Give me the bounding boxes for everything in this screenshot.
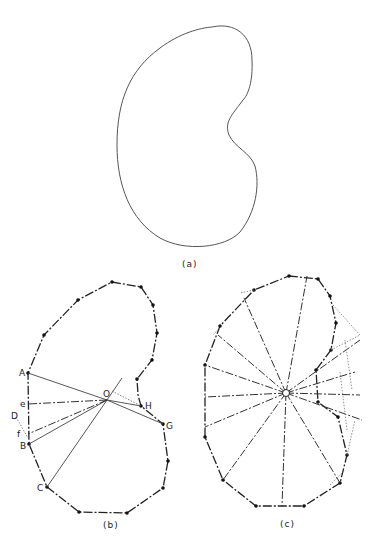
kidney-outline	[117, 26, 257, 247]
vertex-dots	[203, 274, 349, 508]
polygon-outline	[28, 282, 168, 513]
label-f: f	[17, 429, 21, 439]
label-D: D	[11, 411, 18, 421]
dotted-lines	[16, 391, 141, 438]
panel-a: (a)	[117, 26, 257, 269]
panel-c: (c)	[203, 274, 362, 529]
panel-b: A e D f B C O H G (b)	[11, 280, 173, 530]
label-G: G	[166, 421, 173, 431]
figure: (a) A e	[0, 0, 376, 549]
vertex-dots	[26, 280, 170, 515]
label-C: C	[37, 483, 43, 493]
label-A: A	[19, 368, 26, 378]
polygon-outline	[205, 276, 347, 506]
label-O: O	[103, 389, 110, 399]
label-e: e	[20, 399, 26, 409]
caption-b: (b)	[103, 520, 119, 530]
caption-c: (c)	[280, 519, 295, 529]
label-H: H	[145, 401, 152, 411]
solid-rays	[28, 373, 163, 487]
caption-a: (a)	[182, 259, 198, 269]
label-B: B	[20, 441, 26, 451]
center-point-O	[283, 390, 290, 397]
